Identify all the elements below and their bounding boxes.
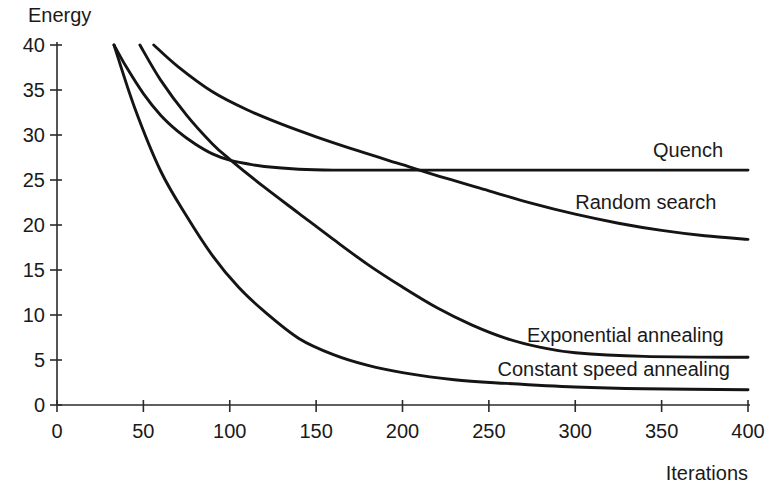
series-label-quench: Quench — [653, 139, 723, 161]
y-tick-label-10: 10 — [23, 304, 45, 326]
x-tick-label-100: 100 — [213, 420, 246, 442]
x-tick-label-50: 50 — [132, 420, 154, 442]
chart-axes — [57, 42, 750, 405]
x-tick-label-250: 250 — [472, 420, 505, 442]
y-tick-label-20: 20 — [23, 214, 45, 236]
y-tick-label-25: 25 — [23, 169, 45, 191]
y-tick-label-0: 0 — [34, 394, 45, 416]
x-tick-label-0: 0 — [51, 420, 62, 442]
x-axis-title: Iterations — [666, 462, 748, 484]
y-tick-label-30: 30 — [23, 124, 45, 146]
x-tick-label-150: 150 — [299, 420, 332, 442]
x-tick-label-300: 300 — [559, 420, 592, 442]
y-tick-label-15: 15 — [23, 259, 45, 281]
energy-vs-iterations-chart: 0510152025303540050100150200250300350400… — [0, 0, 779, 493]
x-tick-label-350: 350 — [645, 420, 678, 442]
chart-tick-labels: 0510152025303540050100150200250300350400 — [23, 34, 765, 442]
x-tick-label-200: 200 — [386, 420, 419, 442]
series-label-random-search: Random search — [575, 191, 716, 213]
chart-series-labels: QuenchRandom searchExponential annealing… — [498, 139, 730, 381]
chart-svg: 0510152025303540050100150200250300350400… — [0, 0, 779, 493]
y-axis-title: Energy — [28, 4, 91, 26]
series-label-constant-speed-annealing: Constant speed annealing — [498, 358, 730, 380]
y-tick-label-35: 35 — [23, 79, 45, 101]
series-label-exponential-annealing: Exponential annealing — [527, 324, 724, 346]
x-tick-label-400: 400 — [731, 420, 764, 442]
y-tick-label-40: 40 — [23, 34, 45, 56]
y-tick-label-5: 5 — [34, 349, 45, 371]
